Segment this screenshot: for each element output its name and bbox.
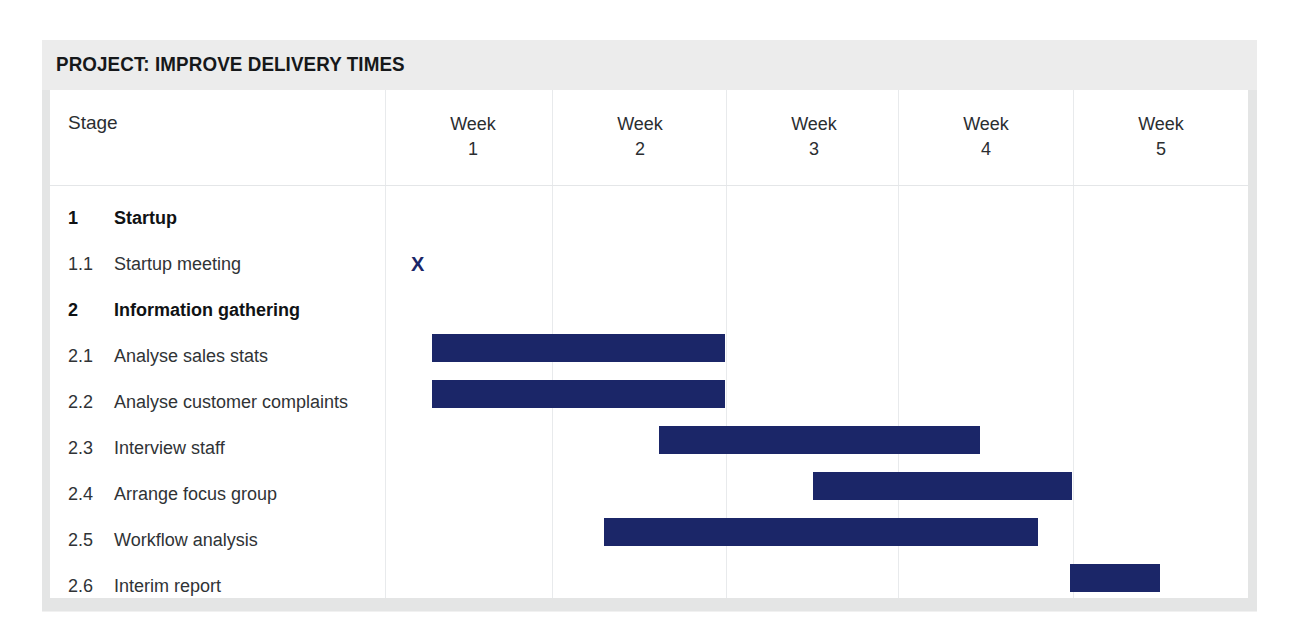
card-right-edge [1248,90,1257,611]
week-word-3: Week [791,114,837,134]
row-label: Interim report [114,576,221,597]
column-header-week-1: Week 1 [386,112,560,162]
row-label: Analyse customer complaints [114,392,348,413]
week-word-4: Week [963,114,1009,134]
project-title: PROJECT: IMPROVE DELIVERY TIMES [56,53,405,76]
row-number: 2.1 [68,346,114,367]
row-number: 2.3 [68,438,114,459]
gantt-bar-interview-staff[interactable] [659,426,980,454]
gantt-bar-workflow-analysis[interactable] [604,518,1038,546]
gantt-bar-interim-report[interactable] [1070,564,1160,592]
gantt-bar-analyse-customer-complaints[interactable] [432,380,725,408]
week-number-5: 5 [1074,137,1248,162]
column-header-week-2: Week 2 [553,112,727,162]
column-header-week-5: Week 5 [1074,112,1248,162]
column-header-stage: Stage [68,112,118,134]
row-label: Arrange focus group [114,484,277,505]
milestone-marker-startup-meeting: X [411,254,424,274]
column-header-week-3: Week 3 [727,112,901,162]
week-number-3: 3 [727,137,901,162]
table-row[interactable]: 2.6 Interim report [50,576,1248,622]
column-header-week-4: Week 4 [899,112,1073,162]
row-number: 1.1 [68,254,114,275]
table-row[interactable]: 1.1 Startup meeting [50,254,1248,300]
week-word-1: Week [450,114,496,134]
header-separator [50,185,1248,186]
table-row[interactable]: 1 Startup [50,208,1248,254]
week-number-2: 2 [553,137,727,162]
gantt-bar-arrange-focus-group[interactable] [813,472,1072,500]
gantt-table: Stage Week 1 Week 2 Week 3 Week 4 Week 5… [50,90,1248,598]
gantt-chart: PROJECT: IMPROVE DELIVERY TIMES Stage We… [0,0,1302,641]
row-label: Analyse sales stats [114,346,268,367]
row-label: Information gathering [114,300,300,321]
week-number-4: 4 [899,137,1073,162]
row-label: Startup meeting [114,254,241,275]
card-left-edge [42,90,50,611]
row-number: 1 [68,208,114,229]
row-label: Interview staff [114,438,225,459]
week-number-1: 1 [386,137,560,162]
week-word-5: Week [1138,114,1184,134]
row-number: 2.2 [68,392,114,413]
row-number: 2 [68,300,114,321]
row-number: 2.6 [68,576,114,597]
row-number: 2.4 [68,484,114,505]
row-label: Startup [114,208,177,229]
row-label: Workflow analysis [114,530,258,551]
row-number: 2.5 [68,530,114,551]
gantt-bar-analyse-sales-stats[interactable] [432,334,725,362]
week-word-2: Week [617,114,663,134]
